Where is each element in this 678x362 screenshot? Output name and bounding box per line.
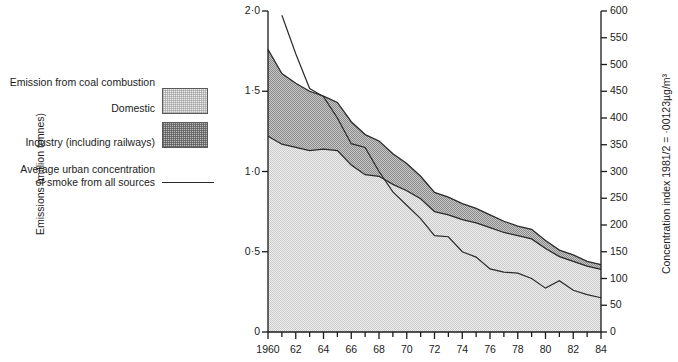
chart-figure: Emission from coal combustion Domestic I…: [0, 0, 678, 362]
right-tick-label-12: 600: [610, 4, 650, 16]
right-tick-label-2: 100: [610, 272, 650, 284]
right-tick-label-4: 200: [610, 218, 650, 230]
right-tick-label-3: 150: [610, 245, 650, 257]
left-tick-label-3: 1·5: [220, 84, 260, 96]
left-tick-label-1: 0·5: [220, 245, 260, 257]
x-tick-label-12: 84: [581, 343, 621, 355]
stacked-areas: [268, 50, 601, 332]
right-tick-label-10: 500: [610, 58, 650, 70]
plot-area: [0, 0, 678, 362]
left-tick-label-2: 1·0: [220, 165, 260, 177]
right-tick-label-6: 300: [610, 165, 650, 177]
left-tick-label-0: 0: [220, 325, 260, 337]
right-tick-label-5: 250: [610, 191, 650, 203]
right-tick-label-8: 400: [610, 111, 650, 123]
right-tick-label-11: 550: [610, 31, 650, 43]
left-tick-label-4: 2·0: [220, 4, 260, 16]
right-tick-label-1: 50: [610, 298, 650, 310]
right-tick-label-0: 0: [610, 325, 650, 337]
right-tick-label-9: 450: [610, 84, 650, 96]
right-tick-label-7: 350: [610, 138, 650, 150]
